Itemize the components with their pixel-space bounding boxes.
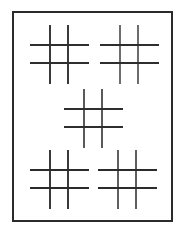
hash-bottom-right: [98, 150, 157, 209]
hash-top-right: [100, 25, 159, 84]
hash-center: [64, 89, 123, 148]
hash-top-left: [30, 25, 89, 84]
hash-bottom-left: [30, 150, 89, 209]
diagram-canvas: [0, 0, 185, 233]
